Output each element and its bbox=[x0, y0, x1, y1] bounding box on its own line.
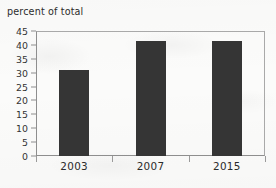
x-axis-end-tick bbox=[36, 156, 37, 162]
x-axis-end-tick bbox=[265, 156, 266, 162]
bar-chart-figure: percent of total 051015202530354045 2003… bbox=[0, 0, 276, 188]
x-axis: 200320072015 bbox=[0, 0, 276, 188]
x-tick-label: 2015 bbox=[213, 160, 241, 172]
x-tick-label: 2003 bbox=[60, 160, 88, 172]
x-tick-separator bbox=[189, 156, 190, 162]
x-tick-separator bbox=[112, 156, 113, 162]
x-tick-label: 2007 bbox=[137, 160, 165, 172]
